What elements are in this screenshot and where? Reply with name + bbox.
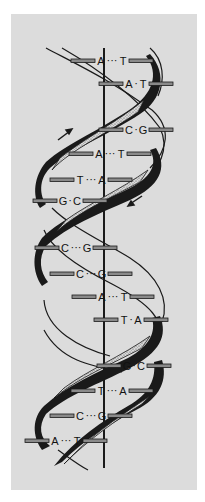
base-right-label: A	[98, 174, 106, 186]
front-strand	[35, 54, 164, 466]
base-pair: A···T	[71, 54, 153, 67]
base-left-label: C	[61, 242, 69, 254]
base-left-label: A	[125, 78, 133, 90]
hydrogen-bond: ·	[134, 123, 138, 135]
hydrogen-bond: ·	[68, 194, 72, 206]
base-right-label: T	[140, 78, 147, 90]
hydrogen-bond: ···	[107, 384, 118, 396]
base-right-label: G	[83, 242, 92, 254]
hydrogen-bond: ···	[86, 267, 97, 279]
base-right-label: T	[118, 148, 125, 160]
base-right-label: C	[73, 195, 81, 207]
base-left-label: T	[121, 314, 128, 326]
base-left-label: A	[97, 55, 105, 67]
hydrogen-bond: ·	[132, 359, 136, 371]
base-pair: A···T	[69, 147, 151, 160]
base-left-label: C	[76, 410, 84, 422]
base-right-label: A	[134, 314, 142, 326]
base-left-label: A	[98, 291, 106, 303]
base-right-label: A	[119, 385, 127, 397]
base-right-label: G	[98, 268, 107, 280]
base-right-label: C	[137, 360, 145, 372]
base-left-label: T	[98, 385, 105, 397]
hydrogen-bond: ·	[129, 313, 133, 325]
base-left-label: A	[95, 148, 103, 160]
base-pair: T···A	[50, 173, 132, 186]
hydrogen-bond: ···	[71, 241, 82, 253]
hydrogen-bond: ···	[105, 147, 116, 159]
dna-double-helix: A···TA·TC·GA···TT···AG·CC···GC···GA···TT…	[0, 0, 205, 502]
hydrogen-bond: ···	[61, 434, 72, 446]
base-pair: A···T	[72, 290, 154, 303]
arrow-up-icon	[58, 129, 72, 140]
base-right-label: T	[74, 435, 81, 447]
base-left-label: G	[123, 360, 132, 372]
base-right-label: T	[121, 291, 128, 303]
base-pair: C···G	[50, 267, 132, 280]
base-right-label: G	[139, 124, 148, 136]
hydrogen-bond: ···	[86, 173, 97, 185]
base-left-label: A	[51, 435, 59, 447]
base-left-label: T	[77, 174, 84, 186]
base-left-label: C	[125, 124, 133, 136]
base-left-label: G	[59, 195, 68, 207]
hydrogen-bond: ···	[107, 54, 118, 66]
base-left-label: C	[76, 268, 84, 280]
hydrogen-bond: ···	[108, 290, 119, 302]
base-right-label: T	[120, 55, 127, 67]
base-right-label: G	[98, 410, 107, 422]
hydrogen-bond: ·	[134, 77, 138, 89]
hydrogen-bond: ···	[86, 409, 97, 421]
